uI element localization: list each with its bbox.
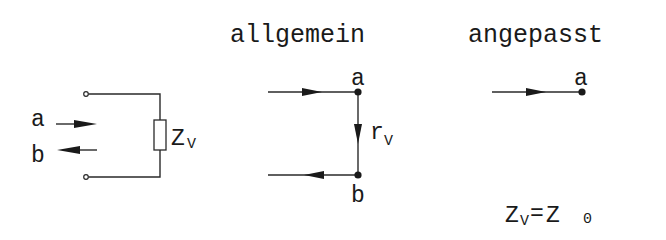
load-circuit: Z V a b	[31, 92, 196, 180]
reflection-label: r	[370, 120, 384, 146]
matched-title: angepasst	[468, 21, 603, 50]
matched-arrow-icon	[526, 88, 546, 96]
bottom-wire	[89, 150, 161, 177]
node-b-label: b	[351, 183, 365, 209]
matched-node-a-label: a	[574, 66, 588, 92]
reflection-subscript: V	[384, 133, 393, 150]
condition-rhs: Z	[546, 203, 560, 229]
condition-lhs-subscript: V	[520, 213, 529, 230]
condition-rhs-subscript: 0	[583, 211, 592, 228]
general-flow-graph: allgemein r V a b	[230, 21, 393, 209]
general-title: allgemein	[230, 21, 365, 50]
node-a-label: a	[351, 66, 365, 92]
impedance-resistor	[154, 120, 166, 150]
top-terminal	[84, 92, 89, 97]
wave-b-label: b	[31, 143, 45, 169]
outgoing-arrow-icon	[304, 171, 324, 179]
bottom-terminal	[84, 175, 89, 180]
impedance-subscript: V	[187, 136, 196, 153]
top-wire	[89, 94, 161, 120]
impedance-label: Z	[171, 126, 185, 152]
wave-a-arrow-icon	[56, 120, 97, 128]
matched-flow-graph: angepasst a Z V = Z 0	[468, 21, 603, 230]
condition-lhs: Z	[505, 203, 519, 229]
matching-condition: Z V = Z 0	[505, 201, 592, 230]
wave-b-arrow-icon	[57, 146, 97, 154]
signal-flow-diagram: Z V a b allgemein r V a b	[0, 0, 666, 240]
condition-equals: =	[530, 201, 544, 227]
wave-a-label: a	[31, 107, 45, 133]
incoming-arrow-icon	[302, 88, 322, 96]
node-b	[354, 171, 361, 178]
reflection-arrow-icon	[354, 124, 362, 144]
